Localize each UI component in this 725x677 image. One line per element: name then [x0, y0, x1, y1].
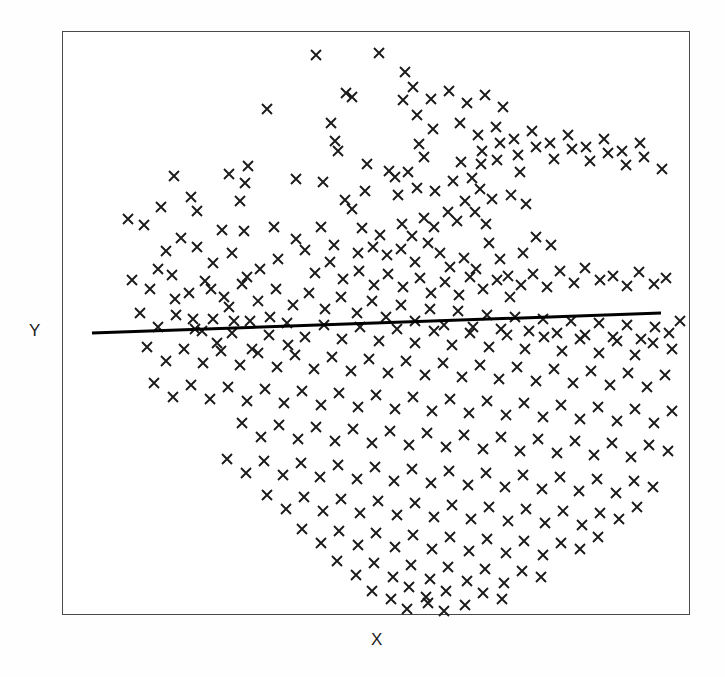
plot-frame: [62, 31, 690, 615]
x-axis-label: X: [371, 630, 383, 650]
y-axis-label: Y: [29, 321, 41, 341]
scatter-plot-figure: Y X: [0, 0, 725, 677]
